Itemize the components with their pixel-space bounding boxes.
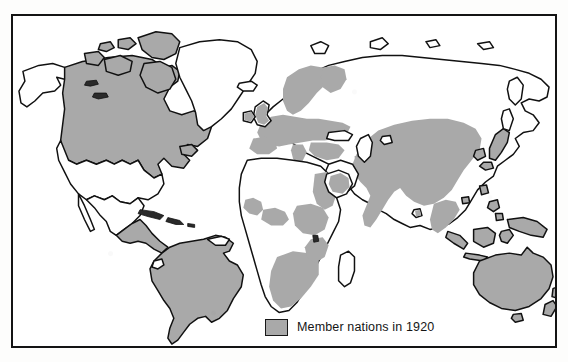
island-hispaniola (166, 218, 184, 225)
island-sulawesi (499, 229, 513, 243)
island-severnaya-zemlya (426, 40, 440, 48)
island-philippines-1 (487, 200, 499, 212)
island-new-zealand-north (552, 285, 555, 299)
region-south-america (150, 235, 243, 344)
region-sri-lanka-member (415, 210, 421, 217)
island-taiwan (480, 185, 489, 195)
lake-nyasa (313, 235, 319, 242)
island-svalbard (311, 42, 329, 54)
island-ellesmere (138, 32, 180, 60)
island-tasmania (511, 313, 523, 322)
map-figure: .c { fill:#ffffff; stroke:#111111; strok… (0, 0, 568, 362)
island-sumatra (446, 231, 468, 249)
map-frame: .c { fill:#ffffff; stroke:#111111; strok… (11, 14, 557, 348)
island-madagascar (339, 251, 355, 287)
island-borneo (474, 227, 496, 247)
island-iceland (237, 81, 257, 91)
world-map-svg: .c { fill:#ffffff; stroke:#111111; strok… (13, 16, 555, 346)
legend-label-member: Member nations in 1920 (297, 321, 434, 334)
island-new-zealand-south (543, 301, 555, 317)
island-philippines-2 (495, 214, 503, 221)
island-hainan (462, 197, 470, 204)
map-legend: Member nations in 1920 (265, 319, 434, 336)
legend-swatch-member (265, 319, 288, 336)
island-arctic-small-2 (98, 42, 114, 52)
island-puerto-rico (188, 223, 195, 227)
island-black-sea (327, 131, 353, 141)
island-cuba (138, 210, 164, 220)
island-new-siberian (478, 42, 494, 50)
island-arctic-small-1 (118, 38, 136, 50)
region-indochina-member (430, 200, 460, 234)
island-aral-sea (380, 136, 392, 145)
island-novaya-zemlya (370, 38, 388, 50)
